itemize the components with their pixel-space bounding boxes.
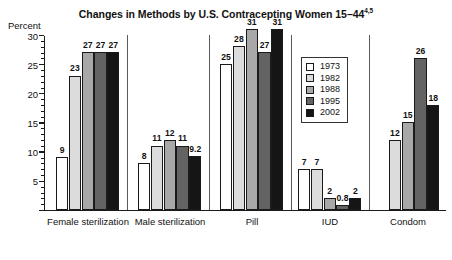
y-minor-tick — [41, 128, 44, 129]
bar-value-label: 18 — [422, 94, 444, 103]
bar — [56, 157, 68, 210]
group-separator — [369, 35, 370, 210]
y-minor-tick — [41, 169, 44, 170]
bar-value-label: 31 — [241, 18, 263, 27]
y-axis-line — [44, 36, 45, 211]
y-minor-tick — [41, 99, 44, 100]
bar — [189, 156, 201, 210]
chart-title: Changes in Methods by U.S. Contracepting… — [0, 7, 452, 20]
x-axis-line — [44, 210, 446, 211]
bar — [349, 198, 361, 210]
y-minor-tick — [41, 198, 44, 199]
y-tick-0 — [39, 210, 44, 211]
bar-value-label: 27 — [102, 41, 124, 50]
y-minor-tick — [41, 41, 44, 42]
y-minor-tick — [41, 117, 44, 118]
y-minor-tick — [41, 140, 44, 141]
legend-swatch-icon — [306, 109, 314, 117]
y-minor-tick — [41, 105, 44, 106]
bar-group: 12152618 — [376, 35, 442, 210]
bar — [164, 140, 176, 210]
legend-item[interactable]: 1973 — [306, 61, 340, 73]
bar — [176, 146, 188, 210]
bar — [138, 163, 150, 210]
legend-item-label: 1995 — [320, 97, 340, 106]
y-tick-label: 10 — [16, 148, 38, 158]
legend-swatch-icon — [306, 86, 314, 94]
legend-item[interactable]: 1995 — [306, 96, 340, 108]
chart-title-superscript: 4,5 — [364, 7, 373, 14]
y-tick-label: 15 — [16, 119, 38, 129]
group-separator — [127, 35, 128, 210]
bar-value-label: 11 — [171, 134, 193, 143]
legend-swatch-icon — [306, 63, 314, 71]
y-tick-20 — [39, 93, 44, 94]
y-minor-tick — [41, 163, 44, 164]
bar-group: 2528312731 — [220, 35, 286, 210]
legend-item[interactable]: 1988 — [306, 84, 340, 96]
bar — [336, 205, 348, 210]
y-minor-tick — [41, 134, 44, 135]
bar-value-label: 26 — [409, 47, 431, 56]
bar — [258, 52, 270, 210]
bar — [69, 76, 81, 210]
bar-value-label: 9.2 — [184, 145, 206, 154]
y-minor-tick — [41, 146, 44, 147]
y-tick-25 — [39, 64, 44, 65]
y-tick-10 — [39, 151, 44, 152]
bar-group: 81112119.2 — [138, 35, 204, 210]
bar — [427, 105, 439, 210]
chart-title-text: Changes in Methods by U.S. Contracepting… — [79, 8, 364, 20]
bar — [389, 140, 401, 210]
bar-chart: Changes in Methods by U.S. Contracepting… — [0, 0, 452, 260]
x-axis-label-condom: Condom — [348, 216, 452, 227]
y-tick-5 — [39, 181, 44, 182]
y-tick-30 — [39, 35, 44, 36]
bar — [246, 29, 258, 210]
y-minor-tick — [41, 111, 44, 112]
bar — [402, 122, 414, 210]
bar-value-label: 7 — [306, 158, 328, 167]
y-tick-label: 20 — [16, 90, 38, 100]
bar-value-label: 31 — [266, 18, 288, 27]
legend-item-label: 1988 — [320, 85, 340, 94]
y-tick-label: 5 — [16, 177, 38, 187]
y-minor-tick — [41, 58, 44, 59]
bar — [151, 146, 163, 210]
bar — [414, 58, 426, 210]
y-minor-tick — [41, 158, 44, 159]
bar — [220, 64, 232, 210]
legend-item-label: 1973 — [320, 62, 340, 71]
y-tick-label: 25 — [16, 60, 38, 70]
bar — [233, 46, 245, 209]
bar-value-label: 2 — [344, 187, 366, 196]
legend-item-label: 1982 — [320, 74, 340, 83]
y-minor-tick — [41, 53, 44, 54]
bar-group: 923272727 — [56, 35, 122, 210]
group-separator — [291, 35, 292, 210]
bar — [298, 169, 310, 210]
y-minor-tick — [41, 193, 44, 194]
group-separator — [209, 35, 210, 210]
bar — [107, 52, 119, 210]
y-minor-tick — [41, 82, 44, 83]
legend-item[interactable]: 2002 — [306, 107, 340, 119]
y-minor-tick — [41, 70, 44, 71]
plot-area: 51015202530 92327272781112119.2252831273… — [44, 36, 446, 211]
legend: 19731982198819952002 — [301, 57, 348, 123]
y-minor-tick — [41, 204, 44, 205]
bar — [82, 52, 94, 210]
y-minor-tick — [41, 175, 44, 176]
y-minor-tick — [41, 88, 44, 89]
y-minor-tick — [41, 76, 44, 77]
bar — [94, 52, 106, 210]
bar — [271, 29, 283, 210]
y-minor-tick — [41, 47, 44, 48]
y-minor-tick — [41, 187, 44, 188]
y-tick-15 — [39, 122, 44, 123]
legend-item[interactable]: 1982 — [306, 73, 340, 85]
legend-item-label: 2002 — [320, 108, 340, 117]
y-tick-label: 30 — [16, 31, 38, 41]
legend-swatch-icon — [306, 74, 314, 82]
legend-swatch-icon — [306, 97, 314, 105]
